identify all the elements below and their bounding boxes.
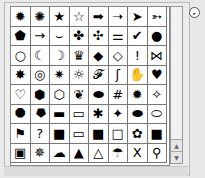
square-outline-icon: □ [112,127,124,140]
shape-swatch-sun-burst[interactable]: ✷ [50,66,70,86]
shape-swatch-arrowhead-right[interactable]: ➤ [128,7,148,27]
shape-swatch-footprint-left[interactable]: 𝓕 [89,66,109,86]
shape-grid: ✹✺★☆➡➝➤➳⬟→⌣✤✣⚌✔●○☾☽♛◆◇!⋈✸◎✷☼𝓕ʃ✋♥♡⬢⬡❦⬬#✹✧… [11,7,169,163]
shape-swatch-banner-curved[interactable]: ⌣ [50,27,70,47]
shape-swatch-octagon-filled[interactable]: ⯃ [11,105,31,125]
shape-swatch-keyhole[interactable]: ⚲ [148,144,168,164]
shape-swatch-star-outline[interactable]: ☆ [70,7,90,27]
diamond-outline-icon: ◇ [113,49,123,62]
keyhole-icon: ⚲ [152,146,162,159]
shape-swatch-bone[interactable]: ⚌ [109,27,129,47]
shape-swatch-square-filled[interactable]: ■ [89,124,109,144]
question-icon: ? [36,127,43,140]
ellipse-filled-icon: ⬬ [132,107,143,120]
shape-swatch-triangle-filled[interactable]: ▲ [70,144,90,164]
shape-swatch-star-filled[interactable]: ★ [50,7,70,27]
shape-swatch-octagon-outline[interactable]: ⯂ [31,105,51,125]
bone-icon: ⚌ [112,29,124,42]
arrow-right-icon: → [34,29,45,42]
vertical-scrollbar[interactable]: ▲ ▼ [170,6,183,164]
frame-filled-icon: ▬ [53,107,65,120]
shape-swatch-ellipse-outline[interactable]: ⬭ [148,105,168,125]
shape-swatch-hand[interactable]: ✋ [128,66,148,86]
shape-swatch-heart-outline[interactable]: ♡ [11,85,31,105]
shape-swatch-leaf[interactable]: ❦ [70,85,90,105]
shape-swatch-moon-outline[interactable]: ☽ [50,46,70,66]
play-circle-icon: ▸ [193,10,196,16]
shape-swatch-puzzle-filled[interactable]: ✤ [70,27,90,47]
shape-swatch-ring[interactable]: ○ [11,46,31,66]
shape-swatch-flag[interactable]: ⚑ [11,124,31,144]
circle-filled-icon: ● [151,29,162,42]
shape-swatch-arrow-feathered[interactable]: ➳ [148,7,168,27]
shape-swatch-ellipse-filled[interactable]: ⬬ [128,105,148,125]
scroll-down-button[interactable]: ▼ [171,151,182,163]
shape-swatch-seal-filled[interactable]: ✸ [11,66,31,86]
shape-swatch-spike-burst[interactable]: ✵ [31,144,51,164]
heart-outline-icon: ♡ [14,88,26,101]
panel-footer [4,166,188,176]
star-outline-icon: ☆ [73,10,85,23]
heart-filled-icon: ♥ [151,68,163,81]
shape-swatch-circle-filled[interactable]: ● [148,27,168,47]
square-filled-2-icon: ■ [151,127,163,140]
square-filled-icon: ■ [92,127,104,140]
shape-swatch-rect-filled[interactable]: ■ [50,124,70,144]
moon-filled-icon: ☾ [34,49,46,62]
shape-grid-container: ✹✺★☆➡➝➤➳⬟→⌣✤✣⚌✔●○☾☽♛◆◇!⋈✸◎✷☼𝓕ʃ✋♥♡⬢⬡❦⬬#✹✧… [10,6,170,166]
shape-swatch-asterisk-star[interactable]: ✱ [89,105,109,125]
shape-swatch-frame-outline[interactable]: ▭ [70,105,90,125]
star-octagon-outline-icon: ✧ [151,88,162,101]
fish-icon: ⋈ [150,49,163,62]
shape-swatch-arrow-right[interactable]: → [31,27,51,47]
shape-swatch-diamond-filled[interactable]: ◆ [89,46,109,66]
shape-swatch-crown[interactable]: ♛ [70,46,90,66]
shape-swatch-hexagon-outline[interactable]: ⬡ [50,85,70,105]
shape-swatch-square-outline[interactable]: □ [109,124,129,144]
shape-swatch-burst-8[interactable]: ✹ [11,7,31,27]
shape-swatch-arrow-pentagon[interactable]: ⬟ [11,27,31,47]
triangle-filled-icon: ▲ [74,146,84,159]
shape-swatch-fish[interactable]: ⋈ [148,46,168,66]
shape-swatch-burst-outline[interactable]: ✺ [31,7,51,27]
shape-swatch-checkmark[interactable]: ✔ [128,27,148,47]
shape-swatch-diamond-outline[interactable]: ◇ [109,46,129,66]
shape-swatch-sun-outline[interactable]: ☼ [70,66,90,86]
banner-curved-icon: ⌣ [55,29,64,42]
scroll-up-button[interactable]: ▲ [171,139,182,151]
shape-swatch-x-mark[interactable]: X [128,144,148,164]
shape-swatch-triangle-outline[interactable]: △ [89,144,109,164]
shape-swatch-moon-filled[interactable]: ☾ [31,46,51,66]
shape-swatch-lips[interactable]: ⬬ [89,85,109,105]
shape-swatch-shamrock[interactable]: ✿ [128,124,148,144]
shape-swatch-frame-filled[interactable]: ▬ [50,105,70,125]
sun-outline-icon: ☼ [73,68,85,81]
shape-swatch-question[interactable]: ? [31,124,51,144]
shape-swatch-heart-filled[interactable]: ♥ [148,66,168,86]
shape-swatch-arrow-right-heavy[interactable]: ➡ [89,7,109,27]
shape-swatch-square-filled-2[interactable]: ■ [148,124,168,144]
panel-menu-button[interactable]: ▸ [189,7,200,18]
arrowhead-right-icon: ➤ [132,10,143,23]
shape-swatch-puzzle-outline[interactable]: ✣ [89,27,109,47]
shape-swatch-rect-outline[interactable]: ▭ [70,124,90,144]
flag-icon: ⚑ [14,127,26,140]
shape-swatch-arrow-right-thin[interactable]: ➝ [109,7,129,27]
x-mark-icon: X [133,146,142,159]
shape-swatch-exclamation[interactable]: ! [128,46,148,66]
shape-swatch-umbrella[interactable]: ☂ [109,144,129,164]
shape-swatch-star-octagon-outline[interactable]: ✧ [148,85,168,105]
puzzle-filled-icon: ✤ [73,29,84,42]
shape-swatch-footprint-right[interactable]: ʃ [109,66,129,86]
spike-burst-icon: ✵ [34,146,45,159]
hexagon-outline-icon: ⬡ [54,88,65,101]
shape-swatch-square-frame[interactable]: ▣ [11,144,31,164]
shape-swatch-maple-leaf[interactable]: ✦ [109,105,129,125]
shape-swatch-seal-ring[interactable]: ◎ [31,66,51,86]
shape-swatch-hexagon-filled[interactable]: ⬢ [31,85,51,105]
shape-swatch-cloud-badge[interactable]: ☁ [50,144,70,164]
shamrock-icon: ✿ [132,127,143,140]
shape-swatch-hash[interactable]: # [109,85,129,105]
shape-swatch-octagon-burst[interactable]: ✹ [128,85,148,105]
moon-outline-icon: ☽ [53,49,65,62]
